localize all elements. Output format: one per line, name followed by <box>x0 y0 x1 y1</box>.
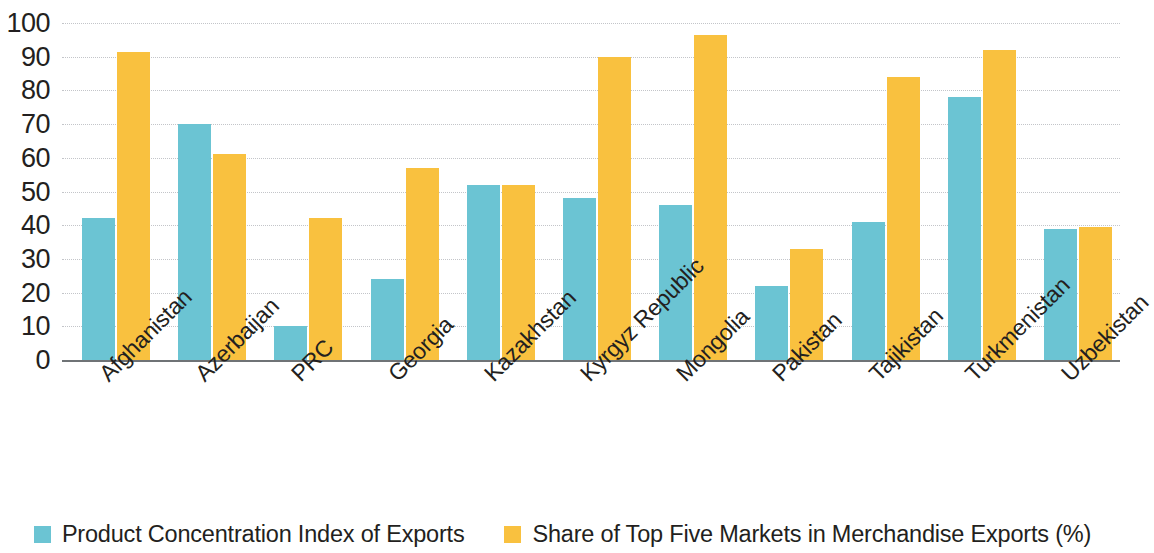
legend-label: Share of Top Five Markets in Merchandise… <box>532 521 1091 548</box>
bar-group <box>850 23 922 360</box>
y-axis-tick: 100 <box>6 8 50 39</box>
legend-item[interactable]: Product Concentration Index of Exports <box>34 521 465 548</box>
y-axis-labels: 1009080706050403020100 <box>0 0 58 383</box>
bar <box>598 57 631 360</box>
bar-group <box>80 23 152 360</box>
bar <box>563 198 596 360</box>
y-axis-tick: 70 <box>21 109 50 140</box>
legend-swatch-icon <box>504 526 521 543</box>
bar-group <box>946 23 1018 360</box>
y-axis-tick: 30 <box>21 243 50 274</box>
y-axis-tick: 10 <box>21 311 50 342</box>
bar <box>371 279 404 360</box>
y-axis-tick: 60 <box>21 142 50 173</box>
chart-legend: Product Concentration Index of ExportsSh… <box>0 521 1125 548</box>
y-axis-tick: 50 <box>21 176 50 207</box>
legend-item[interactable]: Share of Top Five Markets in Merchandise… <box>504 521 1091 548</box>
bar <box>948 97 981 360</box>
bar <box>983 50 1016 360</box>
bar <box>467 185 500 360</box>
bar <box>694 35 727 360</box>
plot-area <box>62 23 1120 360</box>
bar <box>178 124 211 360</box>
y-axis-tick: 20 <box>21 277 50 308</box>
y-axis-tick: 0 <box>35 345 50 376</box>
legend-label: Product Concentration Index of Exports <box>62 521 465 548</box>
y-axis-tick: 90 <box>21 41 50 72</box>
bar <box>117 52 150 360</box>
bar-group <box>465 23 537 360</box>
bar <box>82 218 115 360</box>
x-axis-labels: AfghanistanAzerbaijanPRCGeorgiaKazakhsta… <box>62 362 1120 492</box>
bar-group <box>753 23 825 360</box>
bar <box>755 286 788 360</box>
y-axis-tick: 40 <box>21 210 50 241</box>
bar-group <box>369 23 441 360</box>
y-axis-tick: 80 <box>21 75 50 106</box>
legend-swatch-icon <box>34 526 51 543</box>
bar <box>852 222 885 360</box>
